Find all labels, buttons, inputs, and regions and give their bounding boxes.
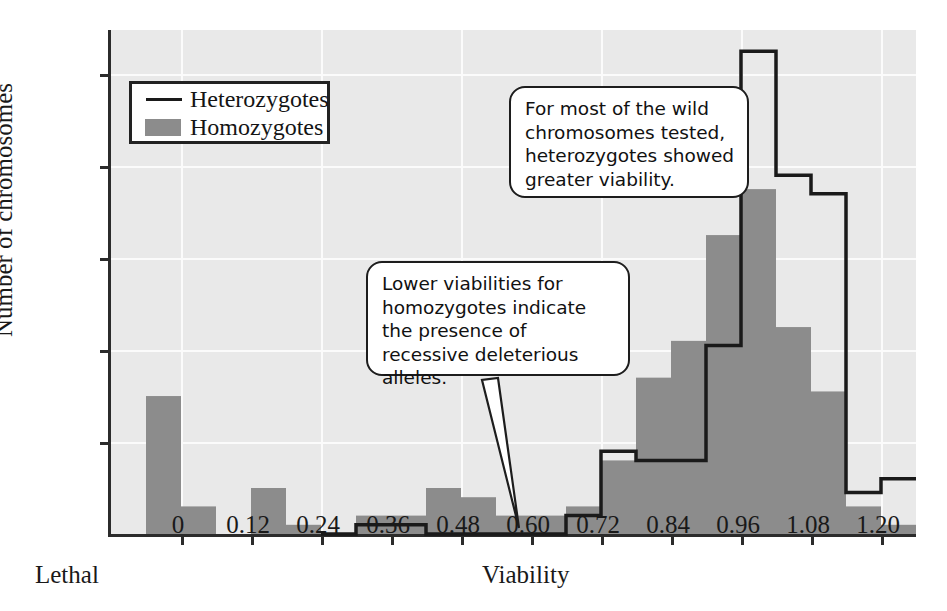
plot-area: Heterozygotes Homozygotes For most of th… [108, 30, 916, 537]
x-tick-label-036: 0.36 [348, 512, 428, 537]
legend-label-homozygotes: Homozygotes [190, 114, 323, 140]
y-axis-label: Number of chromosomes [0, 0, 18, 420]
y-tick-mark [100, 258, 111, 261]
x-axis-label: Viability [482, 561, 569, 589]
x-tick-label-060: 0.60 [488, 512, 568, 537]
y-tick-mark [100, 350, 111, 353]
legend-box-swatch-icon [145, 119, 181, 136]
legend-item-homozygotes: Homozygotes [132, 113, 327, 141]
x-tick-label-012: 0.12 [208, 512, 288, 537]
y-tick-mark [100, 166, 111, 169]
x-tick-label-108: 1.08 [768, 512, 848, 537]
legend-line-swatch-icon [146, 98, 182, 101]
homozygote-bar [741, 189, 776, 534]
legend: Heterozygotes Homozygotes [129, 81, 330, 144]
x-tick-label-048: 0.48 [418, 512, 498, 537]
legend-label-heterozygotes: Heterozygotes [190, 86, 329, 112]
x-tick-label-120: 1.20 [838, 512, 918, 537]
homozygote-bar [706, 235, 741, 534]
y-tick-mark [100, 74, 111, 77]
x-tick-label-072: 0.72 [558, 512, 638, 537]
callout-heterozygotes: For most of the wild chromosomes tested,… [509, 86, 749, 198]
lethal-axis-annotation: Lethal [35, 561, 99, 589]
viability-histogram-figure: Number of chromosomes 50 40 30 20 10 [0, 0, 947, 611]
y-tick-mark [100, 442, 111, 445]
x-tick-label-096: 0.96 [698, 512, 778, 537]
legend-item-heterozygotes: Heterozygotes [132, 85, 327, 113]
x-tick-label-0: 0 [138, 512, 218, 537]
callout-homozygotes: Lower viabilities for homozygotes indica… [366, 261, 630, 376]
homozygote-bar [671, 341, 706, 534]
x-tick-label-084: 0.84 [628, 512, 708, 537]
homozygote-bar [776, 327, 811, 534]
x-tick-label-024: 0.24 [278, 512, 358, 537]
